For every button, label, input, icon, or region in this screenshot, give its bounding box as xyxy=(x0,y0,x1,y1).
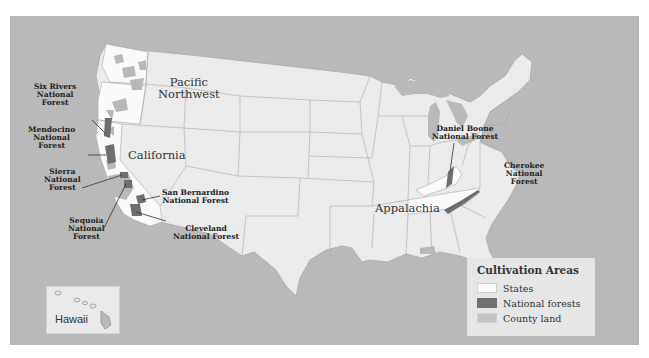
forest-sequoia xyxy=(124,180,132,188)
region-label-appalachia: Appalachia xyxy=(375,202,440,214)
legend-item-national-forests: National forests xyxy=(477,297,580,309)
legend-label-county-land: County land xyxy=(503,313,561,324)
forest-label-sequoia: SequoiaNationalForest xyxy=(68,217,105,241)
legend-item-states: States xyxy=(477,282,533,294)
forest-label-sierra: SierraNationalForest xyxy=(44,168,81,192)
legend-label-states: States xyxy=(503,283,533,294)
region-label-pacific-northwest: PacificNorthwest xyxy=(158,76,220,100)
legend-swatch-county-land xyxy=(477,313,497,323)
legend: Cultivation Areas States National forest… xyxy=(467,258,595,336)
forest-label-cleveland: ClevelandNational Forest xyxy=(173,225,239,241)
forest-label-cherokee: CherokeeNationalForest xyxy=(504,162,544,186)
forest-label-six-rivers: Six RiversNationalForest xyxy=(34,83,76,107)
legend-item-county-land: County land xyxy=(477,312,561,324)
hawaii-label: Hawaii xyxy=(55,313,88,325)
legend-swatch-national-forests xyxy=(477,298,497,308)
hawaii-inset-box: Hawaii xyxy=(46,286,120,334)
forest-label-mendocino: MendocinoNationalForest xyxy=(28,126,75,150)
forest-cleveland xyxy=(130,204,142,216)
legend-title: Cultivation Areas xyxy=(477,264,579,276)
forest-label-san-bernardino: San BernardinoNational Forest xyxy=(162,189,229,205)
legend-label-national-forests: National forests xyxy=(503,298,580,309)
legend-swatch-states xyxy=(477,283,497,293)
hawaii-islands-icon xyxy=(47,287,119,333)
region-label-california: California xyxy=(128,149,186,161)
forest-label-daniel-boone: Daniel BooneNational Forest xyxy=(432,125,498,141)
